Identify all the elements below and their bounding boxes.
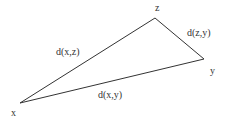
vertex-label-y: y <box>210 66 215 76</box>
edge-label-d-x-z: d(x,z) <box>56 47 80 57</box>
edge-label-d-x-y: d(x,y) <box>98 90 122 100</box>
triangle-diagram <box>0 0 227 118</box>
edge-x-z <box>20 18 155 103</box>
edge-z-y <box>155 18 204 59</box>
vertex-label-x: x <box>11 108 16 118</box>
vertex-label-z: z <box>155 3 159 13</box>
edge-label-d-z-y: d(z,y) <box>187 28 211 38</box>
